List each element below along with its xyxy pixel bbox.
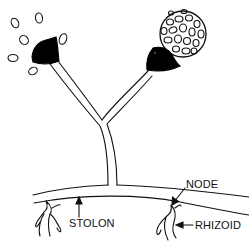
rhizoid-left bbox=[36, 201, 61, 236]
rhizoid-arrow bbox=[176, 222, 193, 228]
label-node: NODE bbox=[186, 179, 218, 190]
label-stolon: STOLON bbox=[69, 218, 115, 229]
label-rhizoid: RHIZOID bbox=[195, 220, 241, 231]
sporangiophore-right bbox=[102, 71, 152, 185]
rhizoid-right bbox=[157, 205, 181, 240]
rhizopus-diagram bbox=[0, 0, 249, 245]
columella-left bbox=[32, 37, 59, 64]
columella-right bbox=[147, 47, 180, 71]
stolon-arrow bbox=[76, 197, 82, 217]
sporangiophore-left bbox=[50, 61, 108, 185]
